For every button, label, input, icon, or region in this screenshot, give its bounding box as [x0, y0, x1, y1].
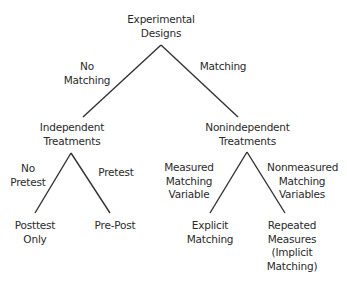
- edge-label-no-matching: No Matching: [62, 60, 112, 87]
- node-independent-treatments: Independent Treatments: [32, 121, 112, 148]
- node-explicit-matching: Explicit Matching: [180, 219, 240, 246]
- node-repeated-measures: Repeated Measures (Implicit Matching): [262, 219, 322, 273]
- edge-label-no-pretest: No Pretest: [8, 162, 48, 189]
- node-pre-post: Pre-Post: [85, 219, 145, 233]
- node-nonindependent-treatments: Nonindependent Treatments: [200, 121, 295, 148]
- edge-independent-to-prepost: [71, 153, 110, 213]
- node-experimental-designs: Experimental Designs: [121, 13, 201, 40]
- node-posttest-only: Posttest Only: [5, 219, 65, 246]
- edge-label-matching: Matching: [198, 60, 248, 74]
- edge-label-nonmeasured-matching-variables: Nonmeasured Matching Variables: [267, 161, 337, 202]
- edge-nonindependent-to-explicit: [210, 152, 247, 213]
- edge-label-pretest: Pretest: [96, 166, 136, 180]
- edge-label-measured-matching-variable: Measured Matching Variable: [163, 161, 215, 202]
- edge-root-to-nonindependent: [161, 45, 238, 117]
